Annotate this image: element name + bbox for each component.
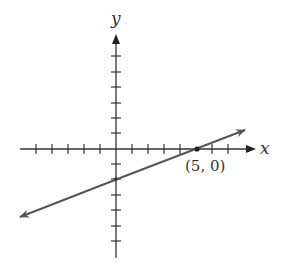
x-intercept-point xyxy=(194,146,199,151)
x-axis xyxy=(20,144,254,154)
y-axis xyxy=(111,36,121,258)
point-label: (5, 0) xyxy=(185,157,225,175)
coordinate-plane: x y (5, 0) xyxy=(0,0,282,270)
y-intercept-point xyxy=(114,177,118,181)
y-axis-label: y xyxy=(110,8,121,28)
x-axis-label: x xyxy=(260,138,270,158)
